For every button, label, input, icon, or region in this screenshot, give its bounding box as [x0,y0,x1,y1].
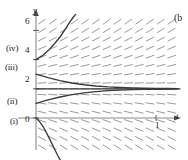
slope-mark [92,94,100,95]
slope-mark [146,137,153,141]
slope-mark [49,103,57,104]
slope-mark [168,145,175,149]
slope-mark [136,19,143,24]
slope-mark [92,55,100,58]
curve-label-iv: (iv) [6,43,18,53]
slope-mark [168,64,176,66]
slope-mark [168,74,176,75]
slope-mark [92,83,100,84]
slope-mark [135,103,143,104]
slope-mark [38,137,45,141]
axis-ticks [33,30,156,121]
slope-mark [60,55,68,58]
slope-mark [38,83,46,84]
slope-mark [92,37,99,41]
slope-mark [125,145,132,149]
y-tick-label-6: 6 [25,16,30,26]
slope-mark [38,111,46,113]
slope-mark [60,83,68,84]
slope-mark [70,111,78,113]
slope-mark [157,19,164,24]
slope-mark [114,94,122,95]
solution-curve-ii [36,89,178,103]
slope-mark [146,74,154,75]
slope-mark [125,120,133,123]
slope-mark [49,28,56,32]
slope-mark [124,103,132,104]
slope-mark [71,28,78,32]
slope-mark [124,111,132,113]
slope-mark [103,74,111,75]
slope-mark [82,28,89,32]
slope-mark [135,46,143,49]
curve-label-i: (i) [10,116,18,126]
slope-mark [125,46,133,49]
slope-mark [157,111,165,113]
slope-mark [103,120,111,123]
slope-mark [168,137,175,141]
slope-mark [114,145,121,149]
curve-label-ii: (ii) [7,96,17,106]
slope-mark [103,83,111,84]
slope-mark [114,137,121,141]
slope-mark [38,46,46,49]
slope-mark [103,28,110,32]
slope-mark [114,28,121,32]
slope-mark [60,145,67,149]
y-axis-label: y [33,5,37,15]
slope-mark [114,111,122,113]
slope-mark [92,120,100,123]
slope-mark [60,19,67,24]
slope-mark [60,128,68,131]
slope-mark [157,137,164,141]
slope-mark [49,74,57,75]
slope-mark [38,94,46,95]
slope-mark [60,46,68,49]
slope-mark [157,28,164,32]
slope-mark [135,64,143,66]
slope-mark [81,103,89,104]
slope-mark [60,120,68,123]
slope-mark [71,55,79,58]
slope-mark [103,128,111,131]
slope-mark [81,46,89,49]
slope-mark [157,145,164,149]
slope-mark [114,55,122,58]
slope-mark [71,145,78,149]
slope-mark [114,120,122,123]
y-tick-label-0: 0 [25,114,30,124]
slope-mark [92,74,100,75]
slope-mark [135,128,143,131]
slope-mark [60,64,68,66]
slope-mark [146,64,154,66]
slope-mark [114,83,122,84]
slope-mark [168,83,176,84]
slope-mark [81,120,89,123]
slope-mark [157,83,165,84]
slope-mark [103,37,110,41]
slope-mark [103,64,111,66]
solution-curve-iii [36,74,178,88]
slope-mark [81,83,89,84]
slope-mark [71,46,79,49]
slope-mark [146,120,154,123]
slope-mark [92,137,99,141]
slope-mark [168,128,176,131]
slope-mark [124,74,132,75]
slope-mark [92,103,100,104]
slope-mark [70,64,78,66]
slope-mark [168,103,176,104]
y-tick-label-4: 4 [25,45,30,55]
slope-mark [103,137,110,141]
slope-mark [147,19,154,24]
slope-mark [125,19,132,24]
slope-mark [103,103,111,104]
slope-mark [157,46,165,49]
slope-mark [49,64,57,66]
slope-mark [146,94,154,95]
slope-mark [146,128,154,131]
slope-mark [70,103,78,104]
slope-mark [157,55,165,58]
slope-mark [114,64,122,66]
slope-mark [136,145,143,149]
